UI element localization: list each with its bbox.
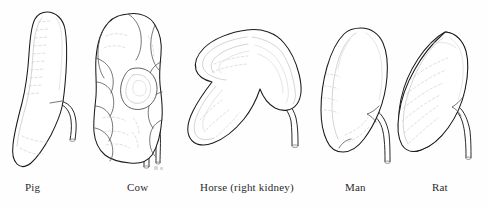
specimen-drawing-horse [188,30,301,148]
ureter-lumen-pig [70,139,75,142]
specimen-label-pig: Pig [25,181,40,193]
specimen-drawing-rat [398,32,471,160]
organ-outline-horse [188,30,301,145]
specimen-label-rat: Rat [432,181,448,193]
specimen-drawing-pig [13,12,77,167]
scan-artifact [154,166,163,170]
comparative-kidney-figure: Pig Cow Horse (right kidney) Man Rat [0,0,487,207]
specimen-label-horse: Horse (right kidney) [200,181,294,193]
ureter-lumen-man [385,161,390,164]
ureter-lumen-rat [466,157,471,160]
specimen-drawing-cow [94,13,163,168]
ureter-lumen-horse [292,145,298,148]
organ-outline-pig [13,12,67,167]
specimen-label-man: Man [345,181,366,193]
specimen-drawing-man [321,28,390,164]
ureter-lumen-cow [144,166,149,168]
vessel-lumen-cow [156,162,160,164]
specimen-label-cow: Cow [127,181,148,193]
ureter-rat [457,107,471,158]
kidney-illustration-svg [0,0,487,207]
